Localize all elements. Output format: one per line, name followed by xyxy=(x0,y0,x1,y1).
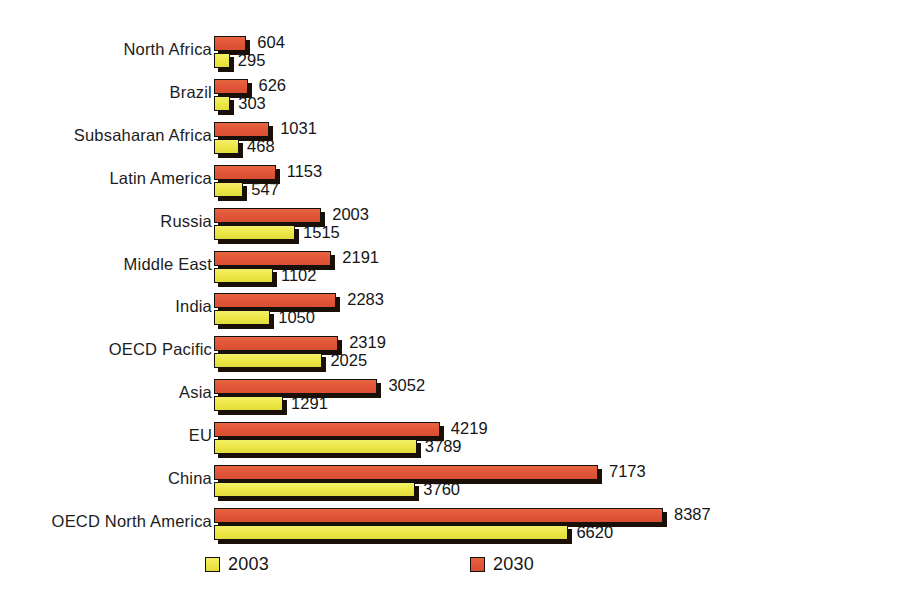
chart-row: EU42193789 xyxy=(0,414,916,457)
bar-2030: 4219 xyxy=(214,422,440,437)
chart-row: India22831050 xyxy=(0,285,916,328)
bar-2030: 3052 xyxy=(214,379,377,394)
category-label: Latin America xyxy=(0,166,212,190)
horizontal-bar-chart: North Africa604295Brazil626303Subsaharan… xyxy=(0,0,916,604)
bar-body xyxy=(214,422,440,437)
bar-2030: 8387 xyxy=(214,508,663,523)
bar-2003: 6620 xyxy=(214,525,568,540)
bar-2003: 468 xyxy=(214,139,239,154)
bar-value-label: 7173 xyxy=(609,464,646,479)
bar-2030: 7173 xyxy=(214,465,598,480)
bar-body xyxy=(214,268,273,283)
bar-value-label: 547 xyxy=(251,182,279,197)
chart-row: Latin America1153547 xyxy=(0,157,916,200)
bar-2003: 1050 xyxy=(214,310,270,325)
bar-body xyxy=(214,79,248,94)
bar-value-label: 626 xyxy=(259,78,287,93)
bar-value-label: 8387 xyxy=(674,507,711,522)
bar-body xyxy=(214,396,283,411)
bar-2003: 547 xyxy=(214,182,243,197)
bar-body xyxy=(214,165,276,180)
bar-value-label: 6620 xyxy=(576,525,613,540)
bar-value-label: 1050 xyxy=(278,310,315,325)
chart-row: OECD North America83876620 xyxy=(0,500,916,543)
bar-body xyxy=(214,208,321,223)
legend-label-2003: 2003 xyxy=(228,554,269,575)
bar-body xyxy=(214,336,338,351)
bar-2003: 295 xyxy=(214,53,230,68)
bar-body xyxy=(214,225,295,240)
bar-2030: 604 xyxy=(214,36,246,51)
bar-2003: 1515 xyxy=(214,225,295,240)
bar-value-label: 1102 xyxy=(281,268,316,283)
chart-row: Subsaharan Africa1031468 xyxy=(0,114,916,157)
bar-body xyxy=(214,182,243,197)
category-label: Brazil xyxy=(0,80,212,104)
bar-value-label: 3789 xyxy=(425,439,462,454)
bar-2030: 2003 xyxy=(214,208,321,223)
bar-body xyxy=(214,96,230,111)
category-label: Middle East xyxy=(0,252,212,276)
category-label: India xyxy=(0,294,212,318)
chart-row: Russia20031515 xyxy=(0,200,916,243)
category-label: China xyxy=(0,466,212,490)
chart-row: Brazil626303 xyxy=(0,71,916,114)
category-label: Russia xyxy=(0,209,212,233)
bar-2030: 2191 xyxy=(214,251,331,266)
bar-2003: 2025 xyxy=(214,353,322,368)
bar-value-label: 1515 xyxy=(303,225,340,240)
bar-2030: 1031 xyxy=(214,122,269,137)
bar-value-label: 1291 xyxy=(291,396,328,411)
legend-swatch-2003-icon xyxy=(205,557,220,572)
bar-value-label: 4219 xyxy=(451,421,488,436)
bar-value-label: 2025 xyxy=(330,353,367,368)
bar-value-label: 2191 xyxy=(342,250,379,265)
bar-body xyxy=(214,251,331,266)
bar-value-label: 295 xyxy=(238,53,266,68)
bar-value-label: 2003 xyxy=(332,207,369,222)
bar-body xyxy=(214,139,239,154)
chart-legend: 2003 2030 xyxy=(0,552,916,582)
bar-body xyxy=(214,379,377,394)
category-label: OECD North America xyxy=(0,509,212,533)
bar-value-label: 3052 xyxy=(388,378,425,393)
bar-value-label: 2319 xyxy=(349,335,386,350)
bar-2030: 2283 xyxy=(214,293,336,308)
bar-2030: 1153 xyxy=(214,165,276,180)
bar-2003: 3789 xyxy=(214,439,417,454)
bar-body xyxy=(214,53,230,68)
legend-swatch-2030-icon xyxy=(470,557,485,572)
bar-body xyxy=(214,525,568,540)
bar-body xyxy=(214,122,269,137)
legend-label-2030: 2030 xyxy=(493,554,534,575)
legend-item-2003: 2003 xyxy=(205,552,269,576)
bar-body xyxy=(214,439,417,454)
category-label: Subsaharan Africa xyxy=(0,123,212,147)
category-label: EU xyxy=(0,423,212,447)
chart-row: China71733760 xyxy=(0,457,916,500)
bar-2003: 1291 xyxy=(214,396,283,411)
chart-row: Asia30521291 xyxy=(0,371,916,414)
bar-2003: 303 xyxy=(214,96,230,111)
bar-body xyxy=(214,465,598,480)
chart-row: Middle East21911102 xyxy=(0,243,916,286)
bar-2003: 1102 xyxy=(214,268,273,283)
bar-value-label: 2283 xyxy=(347,292,384,307)
bar-body xyxy=(214,310,270,325)
bar-body xyxy=(214,353,322,368)
bar-value-label: 468 xyxy=(247,139,275,154)
bar-2030: 626 xyxy=(214,79,248,94)
bar-body xyxy=(214,482,415,497)
bar-value-label: 3760 xyxy=(423,482,460,497)
chart-row: North Africa604295 xyxy=(0,28,916,71)
bar-2003: 3760 xyxy=(214,482,415,497)
bar-value-label: 1031 xyxy=(280,121,317,136)
bar-body xyxy=(214,293,336,308)
bar-2030: 2319 xyxy=(214,336,338,351)
category-label: OECD Pacific xyxy=(0,337,212,361)
bar-value-label: 303 xyxy=(238,96,266,111)
legend-item-2030: 2030 xyxy=(470,552,534,576)
bar-body xyxy=(214,508,663,523)
chart-row: OECD Pacific23192025 xyxy=(0,328,916,371)
bar-value-label: 604 xyxy=(257,35,285,50)
